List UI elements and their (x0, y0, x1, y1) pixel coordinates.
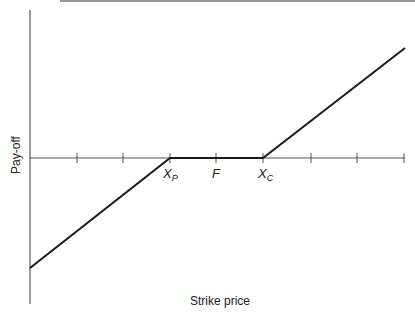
f-label: F (212, 166, 221, 181)
y-axis-title: Pay-off (9, 135, 23, 173)
payoff-diagram: XP F XC Strike price Pay-off (0, 0, 415, 320)
xc-label: XC (257, 166, 274, 183)
x-axis-title: Strike price (190, 294, 250, 308)
xp-label: XP (162, 166, 178, 183)
